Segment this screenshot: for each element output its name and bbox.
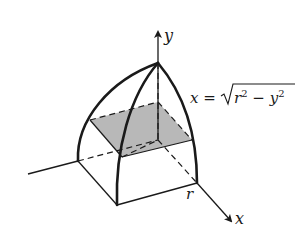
equation-label: x = r2 − y2 — [190, 84, 295, 107]
base-edges — [28, 161, 197, 205]
square-cross-section — [90, 102, 192, 157]
x-axis — [197, 183, 231, 221]
svg-text:r2 − y2: r2 − y2 — [234, 88, 285, 107]
y-axis-label: y — [163, 26, 174, 45]
svg-text:x =: x = — [190, 89, 216, 107]
z-axis-line — [28, 161, 78, 174]
solid-diagram: y x r x = r2 − y2 — [0, 0, 306, 236]
r-label: r — [186, 185, 194, 203]
x-axis-label: x — [235, 209, 244, 228]
